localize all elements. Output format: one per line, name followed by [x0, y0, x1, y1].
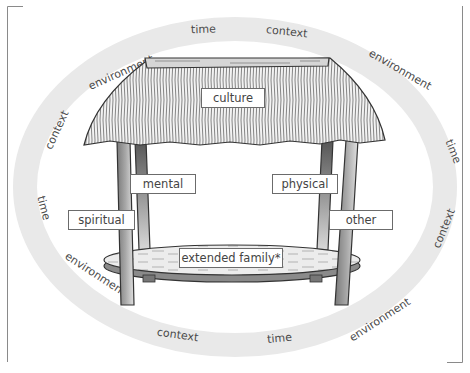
fonofale-diagram: time context environment time context en… [0, 0, 470, 373]
ring-word-top-time: time [191, 22, 217, 36]
label-mental: mental [130, 174, 196, 194]
ring-word-bottom-time: time [267, 331, 293, 346]
label-spiritual: spiritual [68, 210, 135, 230]
label-extended-family: extended family* [179, 248, 283, 268]
label-physical: physical [272, 174, 338, 194]
label-culture: culture [201, 88, 265, 108]
fale-posts-back [135, 140, 333, 250]
label-other: other [329, 210, 393, 230]
